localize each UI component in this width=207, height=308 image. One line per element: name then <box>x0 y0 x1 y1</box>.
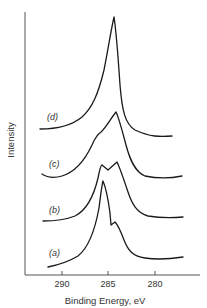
curve-d <box>40 17 172 136</box>
axes: 290 285 280 Binding Energy, eV Intensity <box>5 12 200 306</box>
x-tick-label: 285 <box>100 279 115 289</box>
xps-spectra-chart: 290 285 280 Binding Energy, eV Intensity… <box>0 0 207 308</box>
curve-label-c: (c) <box>49 159 60 169</box>
spectra-curves <box>40 17 183 267</box>
curve-label-a: (a) <box>49 248 60 258</box>
x-tick-label: 280 <box>147 279 162 289</box>
curve-label-b: (b) <box>49 205 60 215</box>
curve-label-d: (d) <box>47 112 58 122</box>
curve-b <box>43 162 183 221</box>
curve-labels: (d) (c) (b) (a) <box>47 112 60 258</box>
x-tick-label: 290 <box>54 279 69 289</box>
y-axis-title: Intensity <box>5 122 16 158</box>
curve-a <box>48 181 183 267</box>
x-axis-title: Binding Energy, eV <box>65 295 146 306</box>
curve-c <box>42 112 182 178</box>
